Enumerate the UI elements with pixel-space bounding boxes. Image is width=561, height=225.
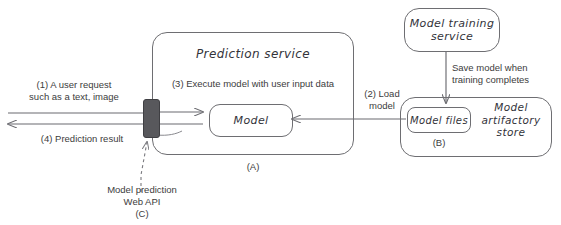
web-api-label: Model prediction Web API	[86, 184, 198, 208]
model-artifactory-store-title: Model artifactory store	[474, 101, 548, 139]
step1-user-request-label: (1) A user request such as a text, image	[10, 79, 138, 103]
prediction-service-caption: (A)	[203, 161, 303, 173]
model-training-service-title: Model training service	[405, 17, 499, 43]
prediction-service-title: Prediction service	[152, 48, 354, 61]
diagram-canvas: Prediction service (3) Execute model wit…	[0, 0, 561, 225]
step2-load-model-label: (2) Load model	[359, 88, 405, 112]
model-training-service-box: Model training service	[404, 8, 500, 52]
web-api-caption: (C)	[86, 208, 198, 220]
model-box-label: Model	[210, 114, 292, 127]
save-model-label: Save model when training completes	[452, 62, 552, 86]
model-box: Model	[209, 104, 293, 137]
step3-execute-model-label: (3) Execute model with user input data	[148, 78, 358, 90]
model-files-label: Model files	[408, 114, 470, 127]
model-files-box: Model files	[407, 107, 471, 133]
artifactory-store-caption: (B)	[409, 137, 469, 149]
step4-prediction-result-label: (4) Prediction result	[18, 133, 146, 145]
